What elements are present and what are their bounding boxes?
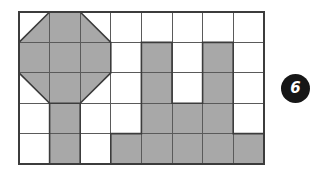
u-right-arm — [203, 42, 234, 133]
question-number-label: 6 — [290, 81, 300, 96]
figure-root: 6 — [0, 0, 323, 181]
octagon-shape — [19, 12, 111, 103]
u-left-arm — [141, 42, 172, 133]
grid-diagram — [0, 0, 323, 181]
bottom-band — [111, 134, 264, 164]
question-number-badge: 6 — [281, 74, 310, 103]
u-bridge — [172, 103, 203, 133]
